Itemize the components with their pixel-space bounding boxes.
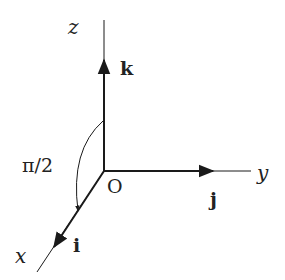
j-vector-label: j [208, 188, 217, 210]
angle-label: π/2 [22, 154, 53, 176]
angle-arc [76, 121, 103, 211]
i-vector-label: i [73, 234, 80, 256]
k-vector-label: k [120, 57, 134, 79]
y-axis-label: y [256, 161, 269, 185]
coordinate-diagram: z k y j x i O π/2 [0, 0, 285, 280]
origin-label: O [107, 175, 123, 197]
z-axis-label: z [67, 15, 79, 39]
x-axis-label: x [15, 244, 26, 268]
